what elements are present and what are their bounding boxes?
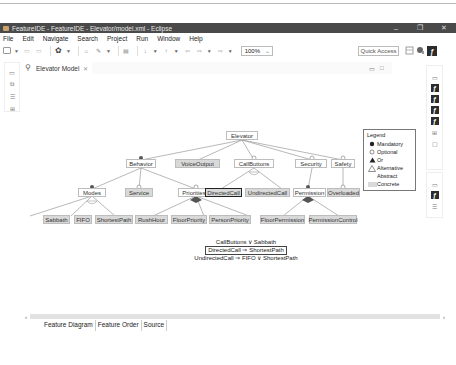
feature-elevator[interactable]: Elevator (226, 131, 258, 140)
constraint[interactable]: CallButtons ∨ Sabbath (186, 238, 306, 246)
feature-permission-control[interactable]: PermissionControl (309, 215, 357, 224)
feature-rush-hour[interactable]: RushHour (135, 215, 168, 224)
feature-call-buttons[interactable]: CallButtons (234, 159, 274, 168)
feature-floor-priority[interactable]: FloorPriority (171, 215, 207, 224)
featureide-view-icon[interactable]: ƒ (431, 117, 439, 125)
abstract-swatch (367, 174, 377, 179)
legend-item: Optional (367, 148, 412, 156)
outline-view-icon[interactable]: ⊞ (431, 128, 439, 136)
featureide-view-icon[interactable]: ƒ (431, 84, 439, 92)
or-icon (367, 157, 377, 163)
right-trim-bar-bottom: ▭ ƒ ☰ (426, 172, 443, 218)
mandatory-icon (367, 141, 377, 147)
editor-page-tabs: Feature Diagram Feature Order Source (42, 320, 167, 331)
scroll-left-icon[interactable]: ‹ (22, 314, 30, 320)
task-list-icon[interactable]: ☰ (431, 202, 439, 210)
horizontal-scrollbar[interactable]: ‹ › (22, 313, 448, 320)
legend-item: Mandatory (367, 140, 412, 148)
legend-title: Legend (367, 132, 412, 138)
feature-shortest-path[interactable]: ShortestPath (95, 215, 133, 224)
or-group-arc-priorities (190, 196, 202, 203)
feature-safety[interactable]: Safety (331, 159, 355, 168)
feature-modes[interactable]: Modes (78, 188, 106, 197)
scrollbar-track[interactable] (30, 314, 440, 319)
featureide-view-icon[interactable]: ƒ (431, 191, 439, 199)
alternative-icon (367, 165, 377, 172)
legend-item: Concrete (367, 180, 412, 188)
restore-icon[interactable]: ▭ (431, 73, 439, 81)
legend[interactable]: Legend Mandatory Optional Or Alternative… (363, 129, 416, 191)
feature-fifo[interactable]: FIFO (74, 215, 92, 224)
cross-tree-constraints: CallButtons ∨ Sabbath DirectedCall ⇒ Sho… (186, 238, 306, 262)
featureide-view-icon[interactable]: ƒ (431, 95, 439, 103)
scroll-right-icon[interactable]: › (440, 314, 448, 320)
right-trim-bar-top: ▭ ƒ ƒ ƒ ƒ ⊞ ▢ (426, 65, 443, 170)
or-group-arc-permission (302, 196, 314, 203)
concrete-swatch (367, 182, 377, 187)
feature-permission[interactable]: Permission (293, 188, 326, 197)
feature-undirected-call[interactable]: UndirectedCall (245, 188, 290, 197)
feature-overloaded[interactable]: Overloaded (327, 188, 360, 197)
feature-sabbath[interactable]: Sabbath (43, 215, 70, 224)
feature-person-priority[interactable]: PersonPriority (209, 215, 251, 224)
tab-feature-diagram[interactable]: Feature Diagram (42, 320, 96, 331)
feature-security[interactable]: Security (295, 159, 327, 168)
feature-directed-call[interactable]: DirectedCall (205, 188, 242, 197)
legend-item: Abstract (367, 172, 412, 180)
constraint[interactable]: UndirectedCall ⇒ FIFO ∨ ShortestPath (186, 254, 306, 262)
feature-service[interactable]: Service (125, 188, 153, 197)
feature-voice-output[interactable]: VoiceOutput (175, 159, 220, 168)
alternative-group-arc-modes (87, 201, 97, 204)
alternative-group-arc-callbuttons (249, 172, 259, 175)
optional-icon (367, 149, 377, 155)
feature-floor-permission[interactable]: FloorPermission (260, 215, 305, 224)
restore-icon[interactable]: ▭ (431, 180, 439, 188)
tab-feature-order[interactable]: Feature Order (96, 320, 142, 331)
tab-source[interactable]: Source (142, 320, 168, 331)
legend-item: Alternative (367, 164, 412, 172)
feature-behavior[interactable]: Behavior (126, 159, 156, 168)
legend-item: Or (367, 156, 412, 164)
console-view-icon[interactable]: ▢ (431, 139, 439, 147)
featureide-view-icon[interactable]: ƒ (431, 106, 439, 114)
